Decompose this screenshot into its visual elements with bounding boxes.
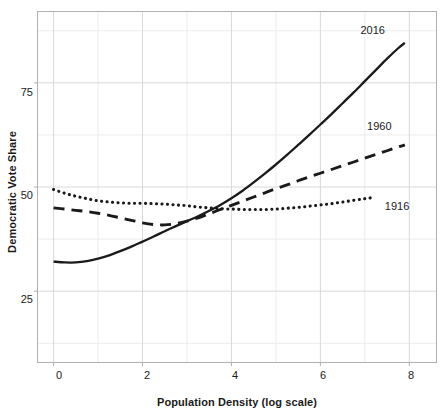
y-tick-label: 75 xyxy=(9,87,33,98)
y-tick-label: 25 xyxy=(9,294,33,305)
series-line-1916 xyxy=(54,190,374,210)
x-tick-label: 0 xyxy=(47,370,71,381)
series-label-1960: 1960 xyxy=(367,121,391,132)
series-line-2016 xyxy=(54,43,405,263)
x-tick-label: 4 xyxy=(223,370,247,381)
series-label-1916: 1916 xyxy=(385,201,409,212)
series-label-2016: 2016 xyxy=(360,25,384,36)
x-axis-title: Population Density (log scale) xyxy=(37,396,437,408)
x-tick-label: 8 xyxy=(399,370,423,381)
y-axis-title: Democratic Vote Share xyxy=(6,112,18,272)
x-tick-label: 2 xyxy=(135,370,159,381)
chart-plot-area xyxy=(0,0,445,419)
axis-ticks-group xyxy=(34,83,409,366)
series-line-1960 xyxy=(54,145,405,225)
x-tick-label: 6 xyxy=(311,370,335,381)
series-group xyxy=(54,43,405,263)
chart-figure: 75 50 25 0 2 4 6 8 Democratic Vote Share… xyxy=(0,0,445,419)
